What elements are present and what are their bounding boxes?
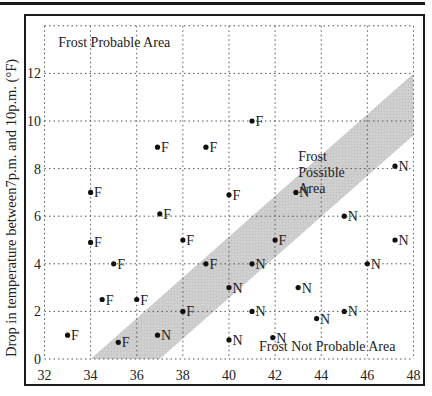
point-marker-icon [342, 214, 347, 219]
point-label: N [256, 257, 266, 272]
point-marker-icon [365, 261, 370, 266]
x-tick-label: 40 [222, 368, 236, 383]
data-point-f: F [65, 328, 79, 343]
point-label: N [256, 304, 266, 319]
point-label: N [399, 159, 409, 174]
point-label: N [320, 312, 330, 327]
area-annotation: Frost [298, 149, 327, 164]
data-point-f: F [155, 140, 169, 155]
x-axis-ticks: 323436384042444648 [38, 368, 421, 383]
point-marker-icon [203, 261, 208, 266]
point-marker-icon [65, 333, 70, 338]
point-marker-icon [116, 340, 121, 345]
point-marker-icon [180, 309, 185, 314]
point-label: F [161, 140, 169, 155]
y-tick-label: 0 [34, 352, 41, 367]
data-point-n: N [342, 304, 358, 319]
point-marker-icon [226, 337, 231, 342]
data-point-n: N [314, 312, 330, 327]
point-label: F [279, 233, 287, 248]
y-axis-ticks: 024681012 [27, 66, 41, 367]
point-label: F [186, 304, 194, 319]
area-annotation: Frost Not Probable Area [259, 339, 396, 354]
data-point-f: F [100, 293, 114, 308]
point-marker-icon [392, 237, 397, 242]
point-label: F [232, 188, 240, 203]
point-marker-icon [249, 309, 254, 314]
point-marker-icon [296, 285, 301, 290]
point-label: F [256, 114, 264, 129]
point-marker-icon [88, 190, 93, 195]
point-marker-icon [392, 164, 397, 169]
x-tick-label: 46 [360, 368, 374, 383]
area-annotation: Area [298, 181, 326, 196]
point-label: F [94, 235, 102, 250]
data-point-f: F [111, 257, 125, 272]
point-label: F [163, 207, 171, 222]
point-label: F [186, 233, 194, 248]
point-label: N [232, 333, 242, 348]
point-marker-icon [100, 297, 105, 302]
point-marker-icon [203, 145, 208, 150]
point-marker-icon [226, 285, 231, 290]
point-label: N [161, 328, 171, 343]
data-point-n: N [249, 304, 265, 319]
point-marker-icon [111, 261, 116, 266]
data-point-f: F [226, 188, 240, 203]
x-tick-label: 34 [84, 368, 98, 383]
x-tick-label: 44 [314, 368, 328, 383]
y-tick-label: 8 [34, 162, 41, 177]
point-marker-icon [155, 333, 160, 338]
data-point-n: N [392, 159, 408, 174]
point-label: F [209, 257, 217, 272]
point-marker-icon [134, 297, 139, 302]
data-point-f: F [203, 140, 217, 155]
point-label: F [140, 293, 148, 308]
point-label: N [302, 281, 312, 296]
point-marker-icon [155, 145, 160, 150]
point-label: F [106, 293, 114, 308]
x-tick-label: 36 [130, 368, 144, 383]
y-tick-label: 4 [34, 257, 41, 272]
point-label: F [209, 140, 217, 155]
data-point-f: F [249, 114, 263, 129]
x-tick-label: 38 [176, 368, 190, 383]
point-label: N [348, 304, 358, 319]
point-marker-icon [249, 261, 254, 266]
point-label: F [122, 335, 130, 350]
point-label: F [71, 328, 79, 343]
data-point-n: N [296, 281, 312, 296]
area-annotation: Possible [298, 165, 345, 180]
area-annotation: Frost Probable Area [58, 35, 171, 50]
point-label: F [117, 257, 125, 272]
data-point-f: F [180, 233, 194, 248]
point-marker-icon [180, 237, 185, 242]
y-tick-label: 6 [34, 209, 41, 224]
point-label: N [371, 257, 381, 272]
point-label: N [348, 209, 358, 224]
point-marker-icon [157, 211, 162, 216]
data-point-n: N [392, 233, 408, 248]
y-tick-label: 2 [34, 304, 41, 319]
point-marker-icon [342, 309, 347, 314]
point-label: F [94, 185, 102, 200]
point-marker-icon [273, 237, 278, 242]
data-point-n: N [342, 209, 358, 224]
y-axis-label: Drop in temperature between7p.m. and 10p… [3, 59, 20, 357]
x-tick-label: 32 [38, 368, 52, 383]
point-marker-icon [88, 240, 93, 245]
x-tick-label: 48 [406, 368, 420, 383]
y-tick-label: 12 [27, 66, 41, 81]
y-tick-label: 10 [27, 114, 41, 129]
point-label: N [399, 233, 409, 248]
point-marker-icon [249, 118, 254, 123]
data-point-f: F [157, 207, 171, 222]
x-tick-label: 42 [268, 368, 282, 383]
point-marker-icon [226, 192, 231, 197]
point-marker-icon [314, 316, 319, 321]
scatter-chart: 323436384042444648 024681012 FFFFFFFFFFF… [0, 0, 432, 396]
point-label: N [232, 281, 242, 296]
